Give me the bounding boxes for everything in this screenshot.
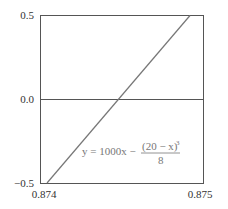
equation-exponent: 3	[176, 139, 180, 147]
equation-denominator: 8	[158, 154, 164, 166]
x-tick-left: 0.874	[32, 188, 57, 200]
equation-numerator: (20 − x)	[142, 140, 178, 153]
x-tick-right: 0.875	[188, 188, 213, 200]
equation-lhs: y = 1000x −	[82, 145, 136, 157]
y-tick-top: 0.5	[20, 9, 34, 21]
y-tick-mid: 0.0	[20, 93, 34, 105]
chart: 0.5 0.0 −0.5 0.874 0.875 y = 1000x − (20…	[0, 0, 228, 209]
equation-label: y = 1000x − (20 − x) 3 8	[82, 139, 180, 166]
